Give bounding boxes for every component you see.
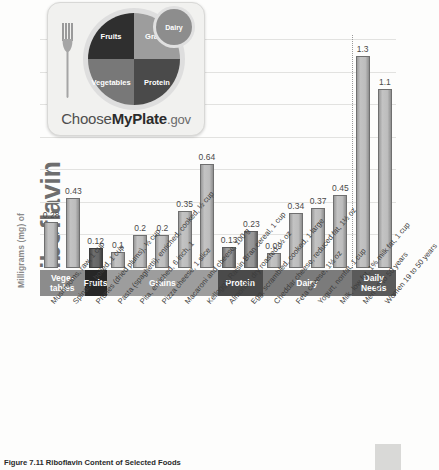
bar-value-label-11: 0.34: [285, 201, 307, 211]
plate-section-dairy: Dairy: [156, 9, 192, 45]
gridline-0.8: [40, 137, 396, 138]
y-axis-title: Riboflavin Milligrams (mg) of: [0, 0, 42, 300]
plate-section-fruits: Fruits: [88, 13, 134, 59]
figure-caption: Figure 7.11 Riboflavin Content of Select…: [4, 458, 181, 467]
bar-value-label-4: 0.2: [129, 223, 151, 233]
y-axis-title-units: Milligrams (mg) of: [16, 213, 26, 288]
brand-myplate: MyPlate: [112, 110, 167, 127]
gridline-0.6: [40, 169, 396, 170]
daily-needs-divider: [352, 35, 353, 268]
bar-value-label-12: 0.37: [307, 196, 329, 206]
x-axis-labels: Mushrooms, raw, 1 cupSpinach, boiled, 1 …: [0, 298, 401, 448]
bar-0: [44, 222, 58, 268]
bar-1: [66, 198, 80, 268]
bar-value-label-1: 0.43: [62, 186, 84, 196]
brand-gov: .gov: [167, 112, 191, 127]
bar-value-label-13: 0.45: [329, 183, 351, 193]
bar-value-label-14: 1.3: [352, 44, 374, 54]
plate-section-vegetables: Vegetables: [88, 59, 134, 105]
brand-choose: Choose: [61, 110, 112, 127]
myplate-wordmark: ChooseMyPlate.gov: [48, 110, 204, 127]
bar-value-label-15: 1.1: [374, 77, 396, 87]
page-corner-marker: [375, 444, 401, 470]
plate-section-protein: Protein: [134, 59, 180, 105]
bar-14: [356, 56, 370, 268]
bar-value-label-0: 0.28: [40, 210, 62, 220]
bar-value-label-7: 0.64: [196, 152, 218, 162]
myplate-logo: Fruits Grains Vegetables Protein Dairy C…: [47, 2, 205, 136]
fork-icon: [61, 21, 75, 99]
